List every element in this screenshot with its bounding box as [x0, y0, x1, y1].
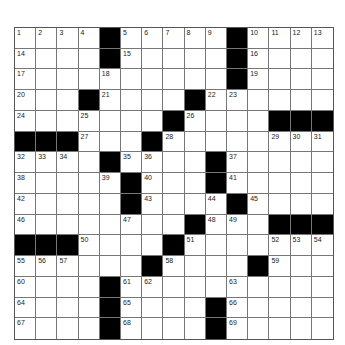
grid-cell[interactable]: [248, 152, 269, 173]
grid-cell[interactable]: [185, 318, 206, 339]
grid-cell[interactable]: [312, 256, 333, 277]
grid-cell[interactable]: [57, 194, 78, 215]
grid-cell[interactable]: [121, 235, 142, 256]
grid-cell[interactable]: [185, 49, 206, 70]
grid-cell[interactable]: [79, 298, 100, 319]
grid-cell[interactable]: [163, 173, 184, 194]
grid-cell[interactable]: [79, 69, 100, 90]
grid-cell[interactable]: 66: [227, 298, 248, 319]
grid-cell[interactable]: [206, 256, 227, 277]
grid-cell[interactable]: [57, 277, 78, 298]
grid-cell[interactable]: [100, 111, 121, 132]
grid-cell[interactable]: 62: [142, 277, 163, 298]
grid-cell[interactable]: 28: [163, 132, 184, 153]
grid-cell[interactable]: 54: [312, 235, 333, 256]
grid-cell[interactable]: [142, 235, 163, 256]
grid-cell[interactable]: [57, 298, 78, 319]
grid-cell[interactable]: [206, 277, 227, 298]
grid-cell[interactable]: [163, 215, 184, 236]
grid-cell[interactable]: [79, 277, 100, 298]
grid-cell[interactable]: 5: [121, 28, 142, 49]
grid-cell[interactable]: [163, 69, 184, 90]
grid-cell[interactable]: 21: [100, 90, 121, 111]
grid-cell[interactable]: [312, 90, 333, 111]
grid-cell[interactable]: [36, 318, 57, 339]
grid-cell[interactable]: [163, 318, 184, 339]
grid-cell[interactable]: [36, 111, 57, 132]
grid-cell[interactable]: [291, 173, 312, 194]
grid-cell[interactable]: 42: [15, 194, 36, 215]
grid-cell[interactable]: [57, 215, 78, 236]
grid-cell[interactable]: [248, 132, 269, 153]
grid-cell[interactable]: [185, 152, 206, 173]
grid-cell[interactable]: 53: [291, 235, 312, 256]
grid-cell[interactable]: [57, 90, 78, 111]
grid-cell[interactable]: [142, 69, 163, 90]
grid-cell[interactable]: [121, 111, 142, 132]
grid-cell[interactable]: 30: [291, 132, 312, 153]
grid-cell[interactable]: [248, 215, 269, 236]
grid-cell[interactable]: 58: [163, 256, 184, 277]
grid-cell[interactable]: 9: [206, 28, 227, 49]
grid-cell[interactable]: [57, 49, 78, 70]
grid-cell[interactable]: [79, 318, 100, 339]
grid-cell[interactable]: [312, 277, 333, 298]
grid-cell[interactable]: 57: [57, 256, 78, 277]
grid-cell[interactable]: [142, 298, 163, 319]
grid-cell[interactable]: 39: [100, 173, 121, 194]
grid-cell[interactable]: 12: [291, 28, 312, 49]
grid-cell[interactable]: [121, 90, 142, 111]
grid-cell[interactable]: 33: [36, 152, 57, 173]
grid-cell[interactable]: 4: [79, 28, 100, 49]
grid-cell[interactable]: 23: [227, 90, 248, 111]
grid-cell[interactable]: 1: [15, 28, 36, 49]
grid-cell[interactable]: [142, 111, 163, 132]
grid-cell[interactable]: [100, 235, 121, 256]
grid-cell[interactable]: [36, 90, 57, 111]
grid-cell[interactable]: 3: [57, 28, 78, 49]
grid-cell[interactable]: 65: [121, 298, 142, 319]
grid-cell[interactable]: 6: [142, 28, 163, 49]
grid-cell[interactable]: [269, 49, 290, 70]
grid-cell[interactable]: [185, 173, 206, 194]
grid-cell[interactable]: [206, 69, 227, 90]
grid-cell[interactable]: [57, 111, 78, 132]
grid-cell[interactable]: 45: [248, 194, 269, 215]
grid-cell[interactable]: [79, 49, 100, 70]
grid-cell[interactable]: 29: [269, 132, 290, 153]
grid-cell[interactable]: 46: [15, 215, 36, 236]
grid-cell[interactable]: 55: [15, 256, 36, 277]
grid-cell[interactable]: [206, 49, 227, 70]
grid-cell[interactable]: [227, 132, 248, 153]
grid-cell[interactable]: [79, 194, 100, 215]
grid-cell[interactable]: [291, 256, 312, 277]
grid-cell[interactable]: [142, 90, 163, 111]
grid-cell[interactable]: [269, 318, 290, 339]
grid-cell[interactable]: [206, 111, 227, 132]
grid-cell[interactable]: 2: [36, 28, 57, 49]
grid-cell[interactable]: [142, 215, 163, 236]
grid-cell[interactable]: [163, 152, 184, 173]
grid-cell[interactable]: 22: [206, 90, 227, 111]
grid-cell[interactable]: [312, 152, 333, 173]
grid-cell[interactable]: [185, 194, 206, 215]
grid-cell[interactable]: [269, 69, 290, 90]
grid-cell[interactable]: 17: [15, 69, 36, 90]
grid-cell[interactable]: [36, 49, 57, 70]
grid-cell[interactable]: [79, 173, 100, 194]
grid-cell[interactable]: [291, 194, 312, 215]
grid-cell[interactable]: [248, 90, 269, 111]
grid-cell[interactable]: 47: [121, 215, 142, 236]
grid-cell[interactable]: [36, 215, 57, 236]
grid-cell[interactable]: 68: [121, 318, 142, 339]
grid-cell[interactable]: [121, 132, 142, 153]
grid-cell[interactable]: 20: [15, 90, 36, 111]
grid-cell[interactable]: [185, 132, 206, 153]
grid-cell[interactable]: 48: [206, 215, 227, 236]
grid-cell[interactable]: 61: [121, 277, 142, 298]
grid-cell[interactable]: [206, 132, 227, 153]
grid-cell[interactable]: 52: [269, 235, 290, 256]
grid-cell[interactable]: [248, 277, 269, 298]
grid-cell[interactable]: [79, 152, 100, 173]
grid-cell[interactable]: 67: [15, 318, 36, 339]
